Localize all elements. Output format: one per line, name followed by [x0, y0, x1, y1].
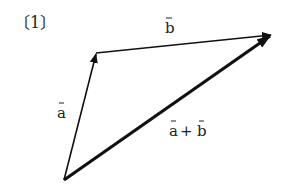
- svg-text:a: a: [169, 122, 178, 140]
- vector-sum-label: a + b: [169, 121, 207, 140]
- vector-b-arrow: [96, 35, 271, 53]
- svg-text:b: b: [165, 19, 175, 37]
- problem-number-label: 〔1〕: [14, 13, 56, 32]
- vector-b-label: b: [165, 18, 175, 37]
- vector-addition-diagram: 〔1〕 b a a + b: [0, 0, 295, 185]
- svg-text:+: +: [180, 122, 193, 140]
- vector-a-label: a: [57, 103, 66, 122]
- svg-text:a: a: [57, 104, 66, 122]
- svg-text:b: b: [197, 122, 207, 140]
